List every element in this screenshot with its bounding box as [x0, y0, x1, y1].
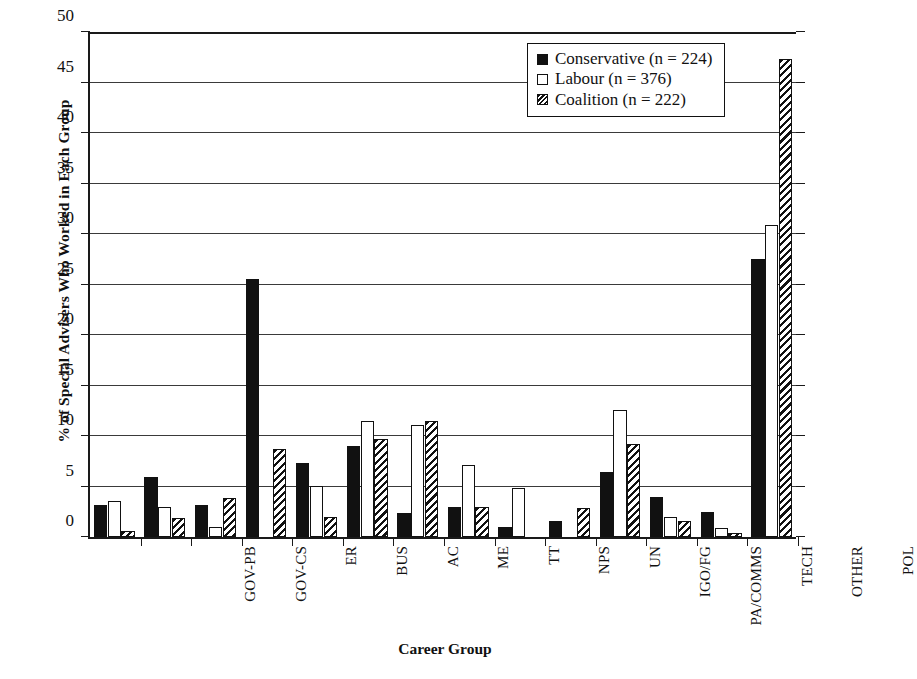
x-axis-category-label: TECH — [799, 546, 816, 676]
y-axis-tick-right — [796, 435, 805, 436]
bar-coalition — [172, 518, 185, 537]
bar-conservative — [144, 477, 157, 537]
y-axis-tick-label: 0 — [28, 512, 74, 529]
bar-group — [195, 32, 236, 537]
x-axis-title: Career Group — [90, 640, 800, 658]
y-axis-tick — [81, 284, 90, 285]
x-axis-tick — [343, 537, 344, 546]
bar-labour — [512, 488, 525, 537]
bar-group — [448, 32, 489, 537]
x-axis-tick — [747, 537, 748, 546]
y-axis-tick-right — [796, 385, 805, 386]
y-axis-tick — [81, 385, 90, 386]
bar-labour — [209, 527, 222, 537]
legend-swatch-conservative-icon — [537, 54, 548, 65]
bar-group — [296, 32, 337, 537]
bar-conservative — [246, 279, 259, 537]
y-axis-tick-label: 35 — [28, 158, 74, 175]
bar-coalition — [728, 533, 741, 537]
bar-conservative — [94, 505, 107, 537]
bar-labour — [310, 486, 323, 537]
x-axis-tick — [444, 537, 445, 546]
y-axis-tick-right — [796, 233, 805, 234]
bar-group — [397, 32, 438, 537]
bar-coalition — [374, 439, 387, 537]
bar-conservative — [347, 446, 360, 537]
bar-group — [144, 32, 185, 537]
bar-coalition — [223, 498, 236, 537]
y-axis-tick-right — [796, 183, 805, 184]
bar-conservative — [650, 497, 663, 537]
bar-coalition — [577, 508, 590, 537]
y-axis-tick — [81, 486, 90, 487]
legend-item: Conservative (n = 224) — [537, 49, 712, 69]
x-axis-tick — [596, 537, 597, 546]
x-axis-tick — [292, 537, 293, 546]
x-axis-tick — [646, 537, 647, 546]
legend-item: Coalition (n = 222) — [537, 90, 712, 110]
y-axis-tick-right — [796, 31, 805, 32]
bar-group — [246, 32, 287, 537]
bar-group — [751, 32, 792, 537]
y-axis-tick-right — [796, 82, 805, 83]
legend-swatch-coalition-icon — [537, 94, 548, 105]
bar-conservative — [498, 527, 511, 537]
x-axis-tick — [141, 537, 142, 546]
y-axis-tick — [81, 334, 90, 335]
bar-coalition — [324, 517, 337, 537]
bar-coalition — [475, 507, 488, 537]
bar-conservative — [751, 259, 764, 537]
y-axis-tick — [81, 132, 90, 133]
chart-legend: Conservative (n = 224)Labour (n = 376)Co… — [527, 43, 725, 117]
bar-labour — [411, 425, 424, 537]
x-axis-category-label: OTHER — [849, 546, 866, 676]
y-axis-tick — [81, 233, 90, 234]
x-axis-tick — [393, 537, 394, 546]
bar-labour — [715, 528, 728, 537]
x-axis-category-label: POL — [900, 546, 917, 676]
bar-group — [94, 32, 135, 537]
y-axis-tick-label: 45 — [28, 57, 74, 74]
bar-conservative — [195, 505, 208, 537]
bar-conservative — [397, 513, 410, 537]
bar-labour — [613, 410, 626, 537]
bar-labour — [462, 465, 475, 537]
x-axis-tick — [495, 537, 496, 546]
legend-item: Labour (n = 376) — [537, 69, 712, 89]
bar-conservative — [600, 472, 613, 537]
x-axis-tick — [697, 537, 698, 546]
bar-labour — [765, 225, 778, 537]
y-axis-tick-label: 40 — [28, 108, 74, 125]
bar-conservative — [448, 507, 461, 537]
x-axis-tick — [191, 537, 192, 546]
y-axis-tick — [81, 536, 90, 537]
y-axis-tick-label: 15 — [28, 360, 74, 377]
bar-group — [347, 32, 388, 537]
bar-labour — [664, 517, 677, 537]
bar-labour — [361, 421, 374, 537]
y-axis-tick-label: 30 — [28, 209, 74, 226]
y-axis-tick-label: 50 — [28, 7, 74, 24]
bar-labour — [108, 501, 121, 538]
bar-coalition — [678, 521, 691, 537]
bar-labour — [158, 507, 171, 537]
bar-coalition — [779, 59, 792, 537]
legend-label: Coalition (n = 222) — [555, 90, 686, 110]
x-axis-tick — [545, 537, 546, 546]
y-axis-tick-label: 25 — [28, 259, 74, 276]
y-axis-tick-right — [796, 486, 805, 487]
y-axis-tick — [81, 435, 90, 436]
x-axis-tick — [798, 537, 799, 546]
bar-coalition — [273, 449, 286, 537]
bar-conservative — [701, 512, 714, 537]
y-axis-tick — [81, 183, 90, 184]
y-axis-tick-right — [796, 132, 805, 133]
legend-label: Labour (n = 376) — [555, 69, 672, 89]
y-axis-tick-label: 10 — [28, 411, 74, 428]
y-axis-tick-right — [796, 284, 805, 285]
y-axis-tick — [81, 31, 90, 32]
y-axis-tick-right — [796, 334, 805, 335]
bar-coalition — [121, 531, 134, 537]
bar-coalition — [627, 444, 640, 537]
